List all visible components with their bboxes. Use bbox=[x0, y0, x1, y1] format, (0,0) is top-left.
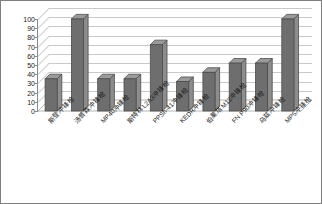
gridline bbox=[49, 26, 312, 27]
gridline bbox=[49, 17, 312, 18]
chart-frame: 0102030405060708090100 斯登冲锋枪汤普森冲锋枪MP40冲锋… bbox=[0, 0, 322, 204]
gridline bbox=[49, 63, 312, 64]
gridline bbox=[49, 36, 312, 37]
bar-front-face bbox=[256, 63, 268, 111]
bar-top-face bbox=[124, 74, 141, 79]
gridline bbox=[49, 72, 312, 73]
gridline bbox=[49, 82, 312, 83]
bar-top-face bbox=[98, 74, 115, 79]
x-axis-tick-label: 斯特林L2A3冲锋枪 bbox=[126, 80, 171, 125]
gridline bbox=[49, 45, 312, 46]
gridline-depth bbox=[38, 100, 50, 112]
y-axis: 0102030405060708090100 bbox=[13, 19, 35, 111]
gridline bbox=[49, 54, 312, 55]
gridline bbox=[49, 8, 312, 9]
bar-top-face bbox=[45, 74, 62, 79]
bar-chart: 0102030405060708090100 斯登冲锋枪汤普森冲锋枪MP40冲锋… bbox=[1, 1, 321, 203]
